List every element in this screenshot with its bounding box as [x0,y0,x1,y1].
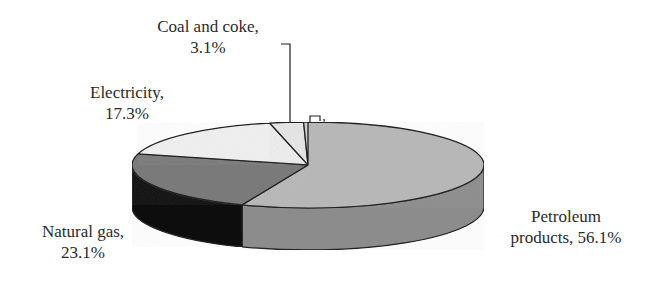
label-natural-gas: Natural gas, 23.1% [18,221,148,263]
label-electricity-name: Electricity, [62,82,192,103]
label-electricity-value: 17.3% [62,103,192,124]
label-coal-and-coke-name: Coal and coke, [128,16,288,37]
label-natural-gas-name: Natural gas, [18,221,148,242]
label-unlabeled-slice-text: , [318,106,330,127]
pie-top-face [132,122,484,208]
label-petroleum-products-value: products, 56.1% [486,227,646,248]
label-electricity: Electricity, 17.3% [62,82,192,124]
label-natural-gas-value: 23.1% [18,242,148,263]
label-coal-and-coke: Coal and coke, 3.1% [128,16,288,58]
label-unlabeled-slice: , [318,106,330,127]
label-petroleum-products-name: Petroleum [486,206,646,227]
label-petroleum-products: Petroleum products, 56.1% [486,206,646,248]
label-coal-and-coke-value: 3.1% [128,37,288,58]
